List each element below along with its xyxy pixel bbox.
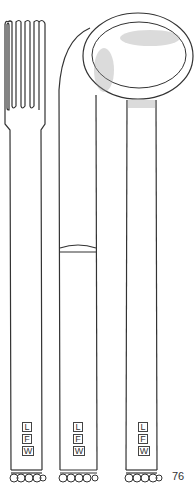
monogram-letter: W <box>138 446 150 456</box>
monogram-letter: F <box>138 434 148 444</box>
cutlery-drawing <box>0 0 195 486</box>
monogram-letter: W <box>73 446 85 456</box>
monogram-letter: F <box>73 434 83 444</box>
monogram-letter: L <box>138 422 148 432</box>
monogram-letter: W <box>22 446 34 456</box>
fork-icon <box>5 21 45 474</box>
cutlery-illustration: L F W L F W L F W 76 <box>0 0 195 486</box>
monogram-letter: L <box>22 422 32 432</box>
monogram-letter: L <box>73 422 83 432</box>
monogram-letter: F <box>22 434 32 444</box>
page-number: 76 <box>172 470 184 482</box>
knife-icon <box>59 28 97 473</box>
bead-decoration <box>10 474 162 482</box>
